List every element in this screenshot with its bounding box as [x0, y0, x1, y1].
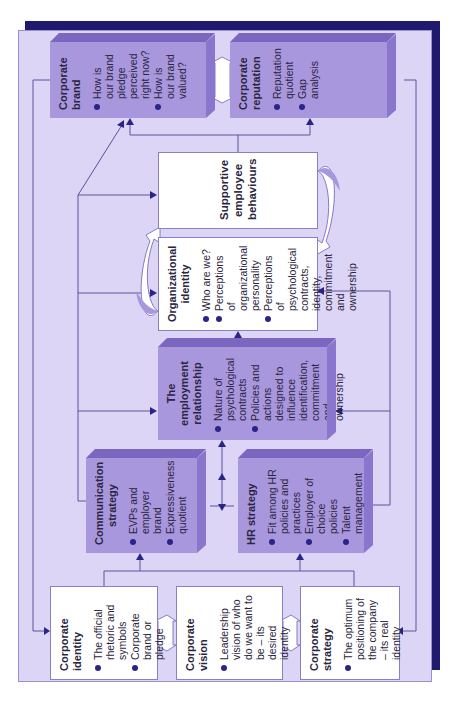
organizational-identity-box: Organizational identityWho are we?Percep…	[158, 237, 318, 331]
bullet-item: Employer of choice policies	[303, 466, 339, 545]
corporate-identity-box: Corporate identityThe official rhetoric …	[50, 586, 158, 680]
corporate-reputation-bullets: Reputation quotientGap analysis	[271, 50, 320, 110]
hr-strategy-box: HR strategyFit among HR policies and pra…	[238, 458, 364, 553]
corporate-vision-bullets: Leadership vision of who do we want to b…	[218, 595, 290, 671]
bullet-item: Fit among HR policies and practices	[266, 466, 302, 545]
corporate-reputation-title: Corporate reputation	[237, 50, 263, 110]
bullet-item: How is our brand valued?	[152, 50, 188, 110]
communication-strategy-title: Communication strategy	[93, 466, 119, 545]
bullet-item: Corporate brand or pledge	[129, 595, 165, 671]
corporate-strategy-box: Corporate strategyThe optimum positionin…	[300, 586, 400, 680]
corporate-brand-box: Corporate brandHow is our brand pledge p…	[50, 42, 206, 118]
bullet-item: The official rhetoric and symbols	[92, 595, 128, 671]
corporate-brand-bullets: How is our brand pledge perceived right …	[91, 50, 188, 110]
supportive-behaviours-title: Supportive employee behaviours	[217, 161, 259, 220]
bullet-item: How is our brand pledge perceived right …	[91, 50, 151, 110]
hr-strategy-bullets: Fit among HR policies and practicesEmplo…	[266, 466, 364, 545]
organizational-identity-bullets: Who are we?Perceptions of organizational…	[200, 246, 358, 322]
communication-strategy-box: Communication strategyEVPs and employer …	[86, 458, 197, 553]
bullet-item: Reputation quotient	[271, 50, 295, 110]
corporate-brand-title: Corporate brand	[57, 50, 83, 110]
corporate-strategy-title: Corporate strategy	[308, 595, 334, 671]
bullet-item: EVPs and employer brand	[127, 466, 163, 545]
corporate-reputation-box: Corporate reputationReputation quotientG…	[230, 42, 387, 118]
bullet-item: Who are we?	[200, 246, 212, 322]
bullet-item: Policies and actions designed to influen…	[249, 355, 345, 432]
bullet-item: The optimum positioning of the company –…	[342, 595, 402, 671]
hr-strategy-title: HR strategy	[245, 466, 258, 545]
employment-relationship-bullets: Nature of psychological contractsPolicie…	[212, 355, 345, 432]
employment-relationship-box: The employment relationshipNature of psy…	[158, 347, 327, 440]
corporate-identity-bullets: The official rhetoric and symbolsCorpora…	[92, 595, 165, 671]
corporate-vision-title: Corporate vision	[184, 595, 210, 671]
organizational-identity-title: Organizational identity	[166, 246, 192, 322]
bullet-item: Perceptions of organizational personalit…	[213, 246, 261, 322]
bullet-item: Talent management	[340, 466, 364, 545]
corporate-strategy-bullets: The optimum positioning of the company –…	[342, 595, 402, 671]
bullet-item: Perceptions of psychological contracts, …	[262, 246, 358, 322]
bullet-item: Expressiveness quotient	[164, 466, 188, 545]
diagram-canvas: Corporate identityThe official rhetoric …	[0, 0, 459, 711]
bullet-item: Nature of psychological contracts	[212, 355, 248, 432]
corporate-vision-box: Corporate visionLeadership vision of who…	[176, 586, 283, 680]
supportive-behaviours-box: Supportive employee behaviours	[158, 152, 318, 229]
employment-relationship-title: The employment relationship	[165, 355, 204, 432]
bullet-item: Gap analysis	[296, 50, 320, 110]
bullet-item: Leadership vision of who do we want to b…	[218, 595, 290, 671]
corporate-identity-title: Corporate identity	[58, 595, 84, 671]
communication-strategy-bullets: EVPs and employer brandExpressiveness qu…	[127, 466, 188, 545]
